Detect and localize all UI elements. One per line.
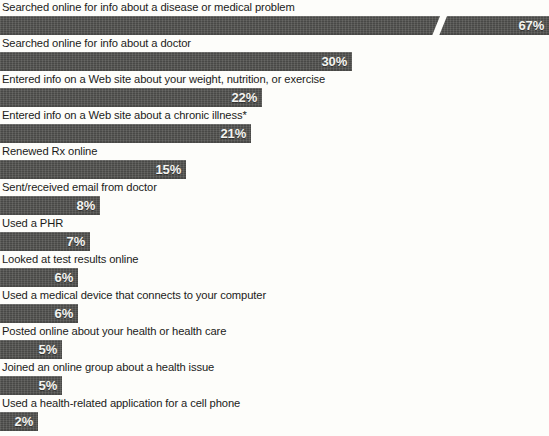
bar-wrapper: 6% <box>0 268 78 287</box>
bar-category-label: Looked at test results online <box>2 252 138 267</box>
horizontal-bar-chart: Searched online for info about a disease… <box>0 0 549 436</box>
bar-value-label: 21% <box>221 124 246 143</box>
bar-category-label: Renewed Rx online <box>2 144 97 159</box>
chart-row: Renewed Rx online15% <box>0 144 549 180</box>
bar-category-label: Used a medical device that connects to y… <box>2 288 266 303</box>
bar-category-label: Sent/received email from doctor <box>2 180 157 195</box>
bar-wrapper: 2% <box>0 412 38 431</box>
bar-value-label: 22% <box>232 88 257 107</box>
bar-value-label: 5% <box>39 340 57 359</box>
bar: 30% <box>0 52 352 71</box>
chart-row: Used a PHR7% <box>0 216 549 252</box>
bar-wrapper: 30% <box>0 52 352 71</box>
bar-value-label: 7% <box>67 232 85 251</box>
bar: 5% <box>0 340 62 359</box>
chart-row: Sent/received email from doctor8% <box>0 180 549 216</box>
chart-row: Used a medical device that connects to y… <box>0 288 549 324</box>
bar: 8% <box>0 196 100 215</box>
bar-category-label: Posted online about your health or healt… <box>2 324 226 339</box>
bar-value-label: 8% <box>77 196 95 215</box>
bar: 15% <box>0 160 186 179</box>
bar: 67% <box>0 16 549 35</box>
bar-category-label: Searched online for info about a doctor <box>2 36 191 51</box>
bar-wrapper: 8% <box>0 196 100 215</box>
chart-rows-container: Searched online for info about a disease… <box>0 0 549 432</box>
bar-wrapper: 15% <box>0 160 186 179</box>
bar-category-label: Joined an online group about a health is… <box>2 360 214 375</box>
axis-break-icon <box>431 16 449 35</box>
bar: 5% <box>0 376 62 395</box>
bar-value-label: 5% <box>39 376 57 395</box>
bar-category-label: Used a health-related application for a … <box>2 396 240 411</box>
bar-category-label: Entered info on a Web site about a chron… <box>2 108 247 123</box>
chart-row: Searched online for info about a doctor3… <box>0 36 549 72</box>
chart-row: Entered info on a Web site about your we… <box>0 72 549 108</box>
bar-wrapper: 5% <box>0 376 62 395</box>
bar: 6% <box>0 304 78 323</box>
bar-category-label: Entered info on a Web site about your we… <box>2 72 325 87</box>
bar: 22% <box>0 88 262 107</box>
chart-row: Searched online for info about a disease… <box>0 0 549 36</box>
bar-wrapper: 7% <box>0 232 90 251</box>
bar-wrapper: 6% <box>0 304 78 323</box>
bar: 6% <box>0 268 78 287</box>
bar-value-label: 67% <box>519 16 544 35</box>
bar-wrapper: 22% <box>0 88 262 107</box>
bar: 7% <box>0 232 90 251</box>
chart-row: Used a health-related application for a … <box>0 396 549 432</box>
bar: 2% <box>0 412 38 431</box>
bar-value-label: 6% <box>55 304 73 323</box>
chart-row: Joined an online group about a health is… <box>0 360 549 396</box>
bar-category-label: Used a PHR <box>2 216 63 231</box>
bar: 21% <box>0 124 251 143</box>
bar-wrapper: 21% <box>0 124 251 143</box>
bar-wrapper: 5% <box>0 340 62 359</box>
bar-value-label: 6% <box>55 268 73 287</box>
chart-row: Entered info on a Web site about a chron… <box>0 108 549 144</box>
chart-row: Posted online about your health or healt… <box>0 324 549 360</box>
bar-category-label: Searched online for info about a disease… <box>2 0 295 15</box>
bar-value-label: 30% <box>322 52 347 71</box>
bar-value-label: 2% <box>15 412 33 431</box>
chart-row: Looked at test results online6% <box>0 252 549 288</box>
bar-wrapper: 67% <box>0 16 549 35</box>
bar-value-label: 15% <box>156 160 181 179</box>
